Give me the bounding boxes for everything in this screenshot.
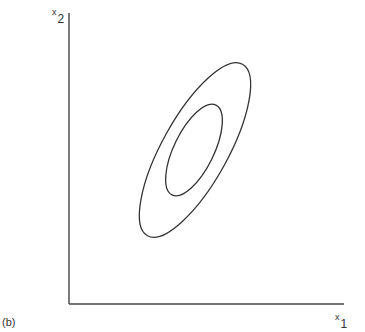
contour-plot <box>0 0 365 332</box>
panel-label: (b) <box>2 316 15 328</box>
y-axis-label: x2 <box>52 8 64 22</box>
x-axis-variable: x <box>335 312 340 322</box>
x-axis-label: x1 <box>335 313 347 327</box>
inner-contour <box>154 96 234 203</box>
outer-contour <box>119 48 272 251</box>
y-axis-subscript: 2 <box>58 12 65 26</box>
x-axis-subscript: 1 <box>341 317 348 331</box>
y-axis-variable: x <box>52 7 57 17</box>
